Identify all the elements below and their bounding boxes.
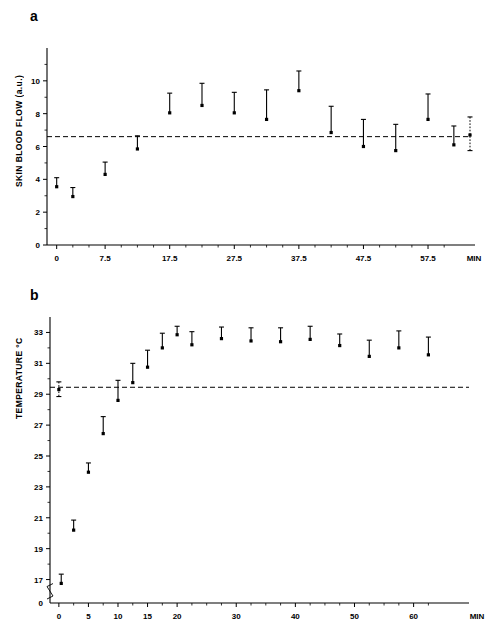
panel-b-datapoint — [426, 337, 431, 356]
panel-b-marker — [116, 399, 119, 402]
panel-a-datapoint — [70, 188, 75, 199]
panel-b-marker — [102, 432, 105, 435]
panel-a-x-tick-label: 37.5 — [291, 254, 307, 263]
panel-b-marker — [190, 343, 193, 346]
panel-b-marker — [161, 346, 164, 349]
panel-b-datapoint — [86, 463, 91, 474]
panel-b-marker — [249, 339, 252, 342]
panel-a-datapoint — [232, 92, 237, 114]
panel-b-datapoint — [115, 380, 120, 402]
panel-b-datapoint — [337, 334, 342, 347]
panel-b-datapoint — [308, 326, 313, 341]
panel-a-datapoint — [103, 162, 108, 176]
panel-b-marker — [87, 471, 90, 474]
panel-a-marker — [297, 89, 300, 92]
panel-b-marker — [57, 388, 60, 391]
panel-a-marker — [71, 195, 74, 198]
panel-a-datapoint — [135, 136, 140, 151]
panel-b-marker — [397, 346, 400, 349]
panel-b-datapoint — [367, 340, 372, 358]
panel-b-datapoint — [101, 417, 106, 436]
panel-b-x-tick-label: 20 — [173, 612, 182, 621]
panel-b-datapoint — [71, 520, 76, 532]
panel-a-marker — [330, 131, 333, 134]
panel-a-datapoint — [167, 93, 172, 114]
panel-a-y-tick-label: 10 — [31, 77, 40, 86]
panel-b-marker — [338, 344, 341, 347]
panel-a-datapoint — [426, 94, 431, 121]
panel-b-y-tick-label: 23 — [34, 483, 43, 492]
panel-a-x-axis-unit-label: MIN — [467, 254, 482, 263]
panel-a-marker — [104, 173, 107, 176]
panel-b-y-tick-label: 29 — [34, 390, 43, 399]
panel-b-marker — [146, 366, 149, 369]
panel-b-marker — [176, 333, 179, 336]
panel-b-y-tick-label: 17 — [34, 576, 43, 585]
panel-a-marker — [468, 133, 471, 136]
panel-b-x-tick-label: 60 — [409, 612, 418, 621]
panel-b-datapoint — [219, 327, 224, 340]
panel-b-marker — [427, 353, 430, 356]
panel-b-plot: 17192123252729313300510152030405060MIN — [0, 285, 486, 625]
panel-a-marker — [452, 143, 455, 146]
panel-b-y-tick-label: 31 — [34, 359, 43, 368]
panel-a-x-tick-label: 57.5 — [420, 254, 436, 263]
panel-a-marker — [362, 145, 365, 148]
panel-b-y-tick-label: 21 — [34, 514, 43, 523]
panel-b-y-tick-label: 19 — [34, 545, 43, 554]
panel-b-datapoint — [396, 331, 401, 350]
panel-a-marker — [426, 118, 429, 121]
panel-b-datapoint — [278, 328, 283, 344]
panel-a-x-tick-label: 7.5 — [100, 254, 112, 263]
panel-a-marker — [265, 118, 268, 121]
panel-a-y-tick-label: 2 — [36, 208, 41, 217]
panel-b-x-tick-label: 50 — [350, 612, 359, 621]
panel-a-datapoint — [361, 119, 366, 148]
panel-b-marker — [220, 337, 223, 340]
panel-b-x-tick-label: 10 — [114, 612, 123, 621]
panel-a: a SKIN BLOOD FLOW (a.u.) 024681007.517.5… — [0, 0, 486, 285]
panel-a-y-tick-label: 0 — [36, 241, 41, 250]
panel-a-datapoint — [393, 124, 398, 152]
panel-a-datapoint — [54, 178, 59, 189]
panel-b-x-tick-label: 40 — [291, 612, 300, 621]
panel-b-marker — [72, 529, 75, 532]
panel-b-datapoint — [59, 574, 64, 585]
panel-b-marker — [131, 381, 134, 384]
panel-b-x-axis-unit-label: MIN — [470, 612, 485, 621]
panel-a-datapoint — [264, 90, 269, 121]
panel-b-datapoint — [189, 332, 194, 347]
panel-b-x-tick-label: 5 — [86, 612, 91, 621]
panel-b-datapoint — [249, 328, 254, 343]
panel-a-marker — [200, 104, 203, 107]
panel-b-marker — [309, 338, 312, 341]
panel-a-marker — [168, 111, 171, 114]
panel-a-datapoint — [468, 117, 473, 151]
panel-b-datapoint — [145, 350, 150, 369]
panel-a-datapoint — [199, 83, 204, 107]
panel-b: b TEMPERATURE °C 17192123252729313300510… — [0, 285, 486, 625]
panel-b-datapoint — [56, 382, 61, 397]
panel-a-x-tick-label: 47.5 — [356, 254, 372, 263]
panel-a-x-tick-label: 0 — [54, 254, 59, 263]
panel-b-datapoint — [160, 333, 165, 349]
panel-a-marker — [394, 149, 397, 152]
panel-b-x-tick-label: 0 — [57, 612, 62, 621]
panel-a-marker — [136, 147, 139, 150]
panel-a-datapoint — [296, 71, 301, 92]
panel-b-marker — [279, 340, 282, 343]
panel-a-y-tick-label: 8 — [36, 110, 41, 119]
panel-b-datapoint — [175, 326, 180, 336]
panel-b-y-tick-label: 27 — [34, 421, 43, 430]
panel-a-y-tick-label: 4 — [36, 175, 41, 184]
panel-b-x-tick-label: 15 — [143, 612, 152, 621]
panel-b-datapoint — [130, 363, 135, 384]
panel-a-marker — [55, 185, 58, 188]
panel-a-marker — [233, 111, 236, 114]
figure-container: a SKIN BLOOD FLOW (a.u.) 024681007.517.5… — [0, 0, 486, 625]
panel-b-marker — [368, 355, 371, 358]
panel-b-marker — [60, 582, 63, 585]
panel-b-y-tick-label: 25 — [34, 452, 43, 461]
panel-a-y-tick-label: 6 — [36, 143, 41, 152]
panel-b-y-tick-label: 33 — [34, 328, 43, 337]
